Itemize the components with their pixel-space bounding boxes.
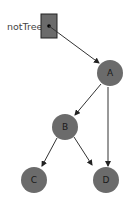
edge-B-D — [74, 137, 92, 165]
edge-B-C — [42, 138, 57, 166]
node-label-b: B — [62, 122, 68, 132]
tree-node-d: D — [93, 167, 119, 193]
tree-node-c: C — [21, 167, 47, 193]
pointer-diagram: notTree A B C D — [0, 0, 135, 202]
node-label-c: C — [31, 175, 37, 185]
tree-node-a: A — [97, 60, 123, 86]
node-label-d: D — [103, 175, 110, 185]
edge-notTree-A — [49, 26, 99, 63]
node-label-a: A — [107, 68, 114, 78]
variable-label: notTree — [7, 21, 43, 32]
tree-node-b: B — [52, 114, 78, 140]
edge-A-B — [75, 84, 101, 115]
